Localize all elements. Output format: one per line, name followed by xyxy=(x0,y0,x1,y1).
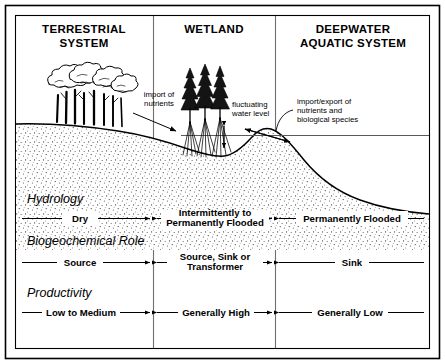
column-header-deepwater-line1: DEEPWATER xyxy=(316,23,391,35)
hydrology-value-deepwater: Permanently Flooded xyxy=(303,213,401,224)
wetland-definition-diagram: TERRESTRIAL SYSTEM WETLAND DEEPWATER AQU… xyxy=(0,0,445,364)
column-header-wetland: WETLAND xyxy=(184,23,244,35)
annotation-import-nutrients-line1: import of xyxy=(144,90,175,99)
annotation-fluctuating-line2: water level xyxy=(231,109,270,118)
column-header-deepwater: DEEPWATER AQUATIC SYSTEM xyxy=(300,23,406,49)
row-label-hydrology: Hydrology xyxy=(27,192,84,206)
annotation-import-export-line2: nutrients and xyxy=(297,106,342,115)
biogeochemical-value-deepwater: Sink xyxy=(342,257,363,268)
column-header-terrestrial-line1: TERRESTRIAL xyxy=(42,23,126,35)
column-header-deepwater-line2: AQUATIC SYSTEM xyxy=(300,37,406,49)
hydrology-value-wetland-line2: Permanently Flooded xyxy=(166,217,264,228)
annotation-import-export-line1: import/export of xyxy=(297,97,352,106)
biogeochemical-value-wetland-line2: Transformer xyxy=(187,261,243,272)
row-label-productivity: Productivity xyxy=(27,286,92,300)
productivity-value-wetland: Generally High xyxy=(182,307,250,318)
column-header-terrestrial-line2: SYSTEM xyxy=(59,37,108,49)
annotation-import-nutrients-line2: nutrients xyxy=(144,99,174,108)
annotation-fluctuating-line1: fluctuating xyxy=(232,100,268,109)
biogeochemical-value-terrestrial: Source xyxy=(64,257,97,268)
productivity-value-terrestrial: Low to Medium xyxy=(46,307,116,318)
hydrology-value-terrestrial: Dry xyxy=(72,213,89,224)
productivity-value-deepwater: Generally Low xyxy=(317,307,383,318)
row-label-biogeochemical-role: Biogeochemical Role xyxy=(27,234,144,248)
column-header-wetland-line1: WETLAND xyxy=(184,23,244,35)
annotation-import-export-line3: biological species xyxy=(297,115,358,124)
